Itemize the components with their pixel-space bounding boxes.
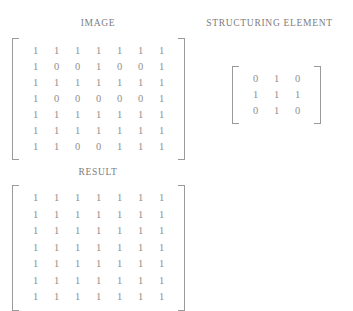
image-matrix-grid: 1111111100100111111111000001111111111111… [19, 38, 178, 160]
matrix-cell: 1 [54, 193, 59, 204]
matrix-cell: 1 [138, 193, 143, 204]
matrix-cell: 1 [159, 226, 164, 237]
matrix-cell: 1 [117, 226, 122, 237]
matrix-cell: 1 [138, 259, 143, 270]
matrix-cell: 1 [33, 62, 38, 73]
matrix-cell: 1 [75, 193, 80, 204]
matrix-cell: 0 [138, 94, 143, 105]
structuring-element-matrix: 010111010 [232, 66, 321, 128]
matrix-cell: 1 [33, 292, 38, 303]
matrix-cell: 1 [138, 292, 143, 303]
matrix-cell: 1 [159, 259, 164, 270]
matrix-cell: 1 [159, 243, 164, 254]
matrix-cell: 1 [159, 292, 164, 303]
matrix-cell: 0 [75, 62, 80, 73]
matrix-cell: 1 [138, 142, 143, 153]
matrix-cell: 1 [274, 90, 279, 101]
matrix-cell: 1 [96, 276, 101, 287]
matrix-cell: 1 [54, 46, 59, 57]
matrix-cell: 1 [96, 193, 101, 204]
image-matrix-wrap: 1111111100100111111111000001111111111111… [12, 38, 185, 160]
matrix-cell: 1 [54, 243, 59, 254]
matrix-cell: 1 [54, 259, 59, 270]
matrix-cell: 0 [253, 74, 258, 85]
matrix-cell: 1 [117, 292, 122, 303]
matrix-cell: 1 [96, 46, 101, 57]
matrix-cell: 1 [33, 259, 38, 270]
matrix-cell: 1 [159, 94, 164, 105]
left-bracket-icon [232, 66, 239, 124]
matrix-cell: 1 [33, 210, 38, 221]
matrix-cell: 1 [33, 226, 38, 237]
matrix-cell: 1 [138, 110, 143, 121]
matrix-cell: 1 [96, 126, 101, 137]
matrix-cell: 0 [96, 142, 101, 153]
matrix-cell: 1 [96, 259, 101, 270]
matrix-cell: 0 [295, 106, 300, 117]
matrix-cell: 1 [54, 110, 59, 121]
matrix-cell: 1 [96, 210, 101, 221]
matrix-cell: 1 [54, 126, 59, 137]
matrix-cell: 0 [96, 94, 101, 105]
matrix-cell: 1 [117, 78, 122, 89]
matrix-cell: 0 [75, 94, 80, 105]
matrix-cell: 1 [75, 78, 80, 89]
image-matrix: 1111111100100111111111000001111111111111… [12, 38, 185, 164]
result-matrix: 1111111111111111111111111111111111111111… [12, 185, 185, 311]
matrix-cell: 1 [33, 193, 38, 204]
matrix-cell: 1 [54, 226, 59, 237]
matrix-cell: 1 [96, 226, 101, 237]
right-bracket-icon [178, 38, 185, 160]
matrix-cell: 1 [96, 110, 101, 121]
matrix-cell: 1 [96, 78, 101, 89]
matrix-cell: 1 [96, 243, 101, 254]
matrix-cell: 1 [75, 243, 80, 254]
matrix-cell: 0 [295, 74, 300, 85]
matrix-cell: 1 [117, 259, 122, 270]
matrix-cell: 1 [159, 142, 164, 153]
matrix-cell: 1 [295, 90, 300, 101]
matrix-cell: 1 [117, 193, 122, 204]
matrix-cell: 1 [96, 62, 101, 73]
matrix-cell: 0 [75, 142, 80, 153]
right-bracket-icon [178, 185, 185, 311]
matrix-cell: 1 [33, 276, 38, 287]
matrix-cell: 1 [159, 78, 164, 89]
matrix-cell: 0 [117, 94, 122, 105]
matrix-cell: 1 [75, 276, 80, 287]
matrix-cell: 1 [75, 46, 80, 57]
matrix-cell: 1 [75, 126, 80, 137]
matrix-cell: 0 [117, 62, 122, 73]
matrix-cell: 1 [54, 210, 59, 221]
matrix-cell: 1 [33, 94, 38, 105]
matrix-cell: 1 [274, 106, 279, 117]
matrix-cell: 1 [274, 74, 279, 85]
matrix-cell: 1 [138, 243, 143, 254]
matrix-cell: 1 [117, 126, 122, 137]
matrix-cell: 1 [159, 110, 164, 121]
matrix-cell: 1 [75, 226, 80, 237]
structuring-element-panel-title: STRUCTURING ELEMENT [186, 18, 353, 28]
matrix-cell: 1 [54, 78, 59, 89]
matrix-cell: 1 [75, 210, 80, 221]
matrix-cell: 1 [96, 292, 101, 303]
result-panel-title: RESULT [38, 167, 158, 177]
matrix-cell: 1 [33, 142, 38, 153]
matrix-cell: 1 [54, 292, 59, 303]
result-matrix-wrap: 1111111111111111111111111111111111111111… [12, 185, 185, 311]
matrix-cell: 0 [253, 106, 258, 117]
matrix-cell: 1 [117, 243, 122, 254]
matrix-cell: 1 [159, 46, 164, 57]
matrix-cell: 1 [117, 46, 122, 57]
structuring-element-matrix-grid: 010111010 [239, 66, 314, 124]
matrix-cell: 1 [117, 142, 122, 153]
matrix-cell: 0 [138, 62, 143, 73]
matrix-cell: 0 [54, 62, 59, 73]
matrix-cell: 1 [159, 193, 164, 204]
matrix-cell: 1 [54, 276, 59, 287]
matrix-cell: 1 [138, 276, 143, 287]
left-bracket-icon [12, 38, 19, 160]
matrix-cell: 1 [117, 210, 122, 221]
result-matrix-grid: 1111111111111111111111111111111111111111… [19, 185, 178, 311]
matrix-cell: 1 [138, 46, 143, 57]
